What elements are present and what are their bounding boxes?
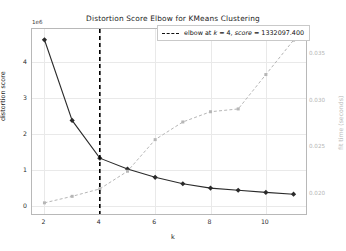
data-point-marker [181, 120, 184, 123]
legend-prefix: elbow at [184, 29, 213, 37]
y-axis-label: distortion score [0, 71, 7, 121]
plot-svg [32, 29, 306, 214]
data-point-marker [209, 110, 212, 113]
series-line-distortion [44, 40, 293, 194]
data-point-marker [180, 181, 185, 186]
y-tick-label-right: 0.035 [309, 50, 335, 56]
data-point-marker [263, 190, 268, 195]
y-tick-label-left: 2 [11, 130, 27, 137]
data-point-marker [237, 107, 240, 110]
x-tick-label: 4 [89, 218, 109, 225]
y-tick-label-right: 0.025 [309, 143, 335, 149]
data-point-marker [43, 201, 46, 204]
data-point-marker [98, 187, 101, 190]
y-tick-label-right: 0.030 [309, 97, 335, 103]
x-tick-label: 8 [200, 218, 220, 225]
legend-dashed-line-icon [162, 33, 179, 34]
y-axis-right-label: fit time (seconds) [337, 96, 344, 150]
data-point-marker [154, 138, 157, 141]
data-point-marker [264, 73, 267, 76]
legend-k-value: = 4, [217, 29, 235, 37]
data-point-marker [126, 170, 129, 173]
series-line-fit-time [44, 40, 293, 203]
x-tick-label: 6 [144, 218, 164, 225]
legend-score-value: = 1332097.400 [252, 29, 304, 37]
legend: elbow at k = 4, score = 1332097.400 [157, 25, 310, 41]
y-tick-label-right: 0.020 [309, 190, 335, 196]
x-axis-label: k [0, 233, 346, 241]
data-point-marker [71, 195, 74, 198]
x-tick-label: 2 [33, 218, 53, 225]
data-point-marker [208, 185, 213, 190]
data-point-marker [153, 175, 158, 180]
y-axis-offset-label: 1e6 [32, 19, 43, 25]
chart-figure: Distortion Score Elbow for KMeans Cluste… [0, 0, 346, 251]
data-point-marker [291, 192, 296, 197]
y-tick-label-left: 0 [11, 202, 27, 209]
data-point-marker [236, 188, 241, 193]
legend-label: elbow at k = 4, score = 1332097.400 [184, 29, 304, 37]
y-tick-label-left: 1 [11, 166, 27, 173]
legend-score-symbol: score [235, 29, 252, 37]
plot-area [31, 28, 307, 215]
y-tick-label-left: 3 [11, 94, 27, 101]
y-tick-label-left: 4 [11, 58, 27, 65]
chart-title: Distortion Score Elbow for KMeans Cluste… [0, 14, 346, 23]
data-point-marker [42, 37, 47, 42]
x-tick-label: 10 [255, 218, 275, 225]
